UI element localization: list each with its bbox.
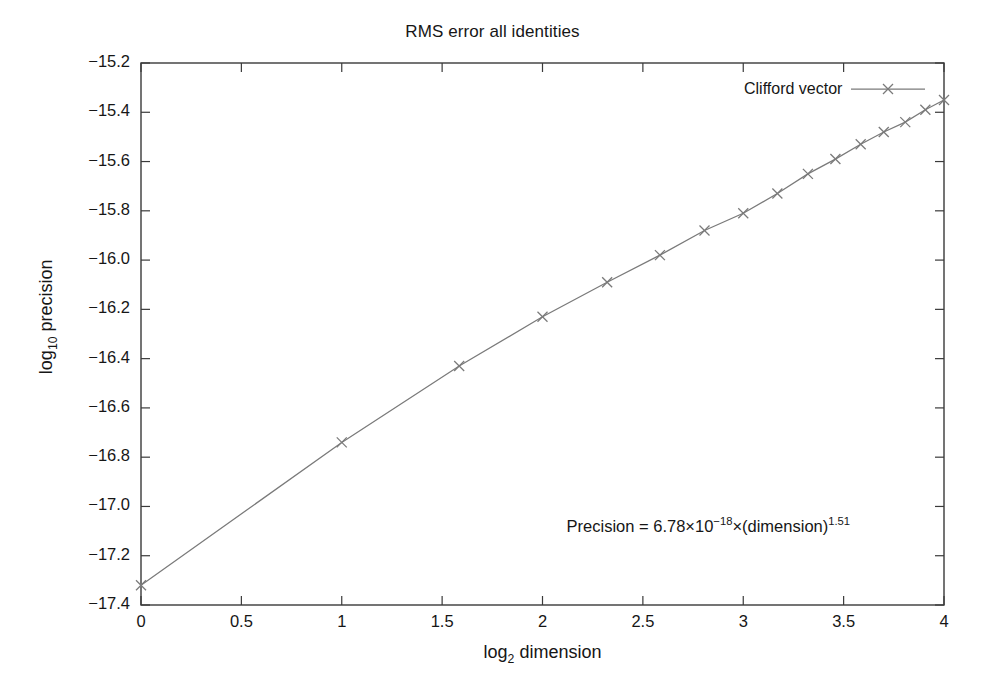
x-tick-label: 2 [513, 612, 573, 631]
multiply-icon-2: × [732, 517, 742, 535]
legend: Clifford vector [744, 80, 925, 98]
y-tick-label: −17.0 [60, 495, 130, 514]
y-tick-label: −16.8 [60, 446, 130, 465]
y-axis-label-base: log [36, 350, 56, 374]
y-tick-label: −16.4 [60, 348, 130, 367]
chart-figure: RMS error all identities log10 precision… [0, 0, 985, 687]
y-axis-tick-labels: −15.2−15.4−15.6−15.8−16.0−16.2−16.4−16.6… [58, 0, 130, 687]
x-axis-tick-labels: 00.511.522.533.54 [0, 612, 985, 642]
data-point-marker [803, 169, 813, 179]
x-axis-label: log2 dimension [141, 642, 944, 666]
x-tick-label: 2.5 [613, 612, 673, 631]
y-tick-label: −16.2 [60, 298, 130, 317]
y-tick-label: −15.8 [60, 200, 130, 219]
fit-exponent-2: 1.51 [828, 515, 850, 527]
data-point-marker [602, 277, 612, 287]
x-tick-label: 3 [713, 612, 773, 631]
fit-base: (dimension) [742, 517, 828, 535]
data-point-marker [738, 208, 748, 218]
data-point-marker [655, 250, 665, 260]
x-axis-label-rest: dimension [514, 642, 601, 662]
x-tick-label: 1.5 [412, 612, 472, 631]
legend-label: Clifford vector [744, 80, 842, 98]
y-tick-label: −15.6 [60, 151, 130, 170]
multiply-icon-1: × [685, 517, 695, 535]
data-point-marker [879, 127, 889, 137]
data-point-marker [900, 117, 910, 127]
data-point-marker [772, 189, 782, 199]
chart-title: RMS error all identities [0, 22, 985, 42]
y-axis-label-rest: precision [36, 259, 56, 336]
x-tick-label: 0 [111, 612, 171, 631]
y-tick-label: −17.2 [60, 545, 130, 564]
data-point-marker [856, 139, 866, 149]
y-tick-label: −17.4 [60, 594, 130, 613]
y-tick-label: −15.2 [60, 52, 130, 71]
legend-marker-x-icon [851, 81, 925, 97]
y-tick-label: −16.6 [60, 397, 130, 416]
x-axis-label-base: log [484, 642, 508, 662]
plot-area [0, 0, 985, 687]
x-tick-label: 0.5 [211, 612, 271, 631]
fit-exponent-1: −18 [713, 515, 732, 527]
data-point-marker [920, 105, 930, 115]
data-point-marker [337, 437, 347, 447]
x-tick-label: 3.5 [814, 612, 874, 631]
x-tick-label: 1 [312, 612, 372, 631]
x-tick-label: 4 [914, 612, 974, 631]
y-tick-label: −15.4 [60, 101, 130, 120]
fit-lead: Precision = 6.78 [567, 517, 686, 535]
y-axis-label: log10 precision [36, 207, 60, 427]
data-point-marker [830, 154, 840, 164]
data-point-marker [538, 312, 548, 322]
fit-ten: 10 [695, 517, 713, 535]
y-tick-label: −16.0 [60, 249, 130, 268]
data-point-marker [454, 361, 464, 371]
data-point-marker [700, 226, 710, 236]
fit-equation-annotation: Precision = 6.78×10−18×(dimension)1.51 [567, 515, 851, 536]
